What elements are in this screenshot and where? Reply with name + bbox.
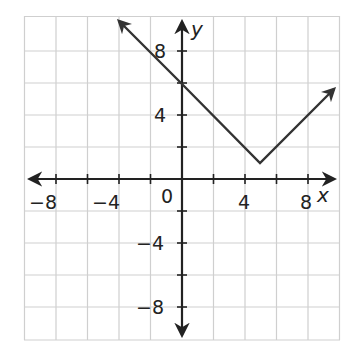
x-label-neg4: −4	[92, 191, 120, 213]
x-label-8: 8	[300, 191, 312, 213]
y-label-neg8: −8	[136, 296, 164, 318]
y-label-neg4: −4	[136, 232, 164, 254]
origin-label: 0	[161, 185, 173, 207]
x-label-neg8: −8	[29, 191, 57, 213]
y-label-8: 8	[154, 40, 166, 62]
x-label-4: 4	[238, 191, 250, 213]
y-label-4: 4	[154, 104, 166, 126]
absolute-value-graph	[119, 21, 334, 163]
coordinate-plane: −8 −4 0 4 8 x 8 4 −4 −8 y	[0, 0, 351, 356]
y-axis-name: y	[190, 17, 204, 41]
axes	[30, 22, 334, 335]
x-axis-name: x	[316, 183, 329, 207]
